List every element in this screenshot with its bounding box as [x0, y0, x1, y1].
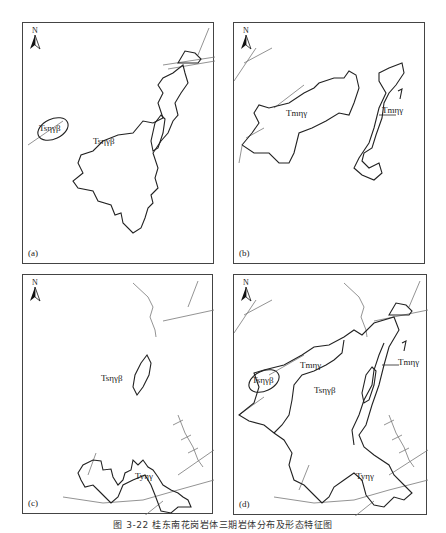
- north-arrow-icon: N: [239, 279, 253, 305]
- map-panel-b: N Tmηγ Tmηγ (b): [233, 22, 425, 264]
- map-panel-c: N Tsηγβ Tyηγ (c): [22, 274, 213, 514]
- rock-unit-label: Tmηγ: [286, 108, 307, 118]
- map-panel-b-geology: [234, 23, 426, 265]
- rock-unit-label: Tsηγβ: [252, 375, 274, 385]
- rock-unit-label: Tsηγβ: [314, 385, 336, 395]
- north-arrow-icon: N: [239, 27, 253, 53]
- rock-unit-label: Tmηγ: [300, 360, 321, 370]
- north-arrow-icon: N: [28, 27, 42, 53]
- panel-label-a: (a): [28, 248, 38, 258]
- map-panel-d: N Tmηγ Tmηγ Tsηγβ Tsηγβ Tyηγ (d): [233, 274, 427, 515]
- rock-unit-label: Tyηγ: [135, 471, 153, 481]
- panel-label-d: (d): [239, 499, 250, 509]
- map-panel-a: N Tsηγβ Tsηγβ (a): [22, 22, 214, 264]
- rock-unit-label: Tmηγ: [382, 105, 403, 115]
- figure-caption: 图 3-22 桂东南花岗岩体三期岩体分布及形态特征图: [0, 518, 446, 531]
- rock-unit-label: Tsηγβ: [39, 123, 61, 133]
- map-panel-d-geology: [234, 275, 428, 516]
- north-arrow-icon: N: [28, 279, 42, 305]
- rock-unit-label: Tmηγ: [398, 357, 419, 367]
- map-panel-a-geology: [23, 23, 215, 265]
- rock-unit-label: Tsηγβ: [101, 373, 123, 383]
- map-panel-c-geology: [23, 275, 214, 515]
- panel-label-b: (b): [239, 248, 250, 258]
- rock-unit-label: Tsηγβ: [93, 136, 115, 146]
- rock-unit-label: Tyηγ: [356, 471, 374, 481]
- panel-label-c: (c): [28, 498, 38, 508]
